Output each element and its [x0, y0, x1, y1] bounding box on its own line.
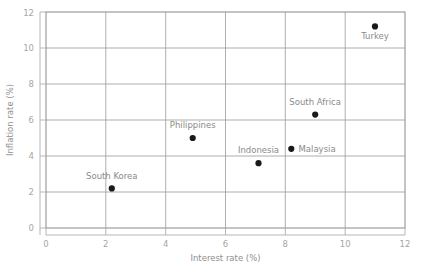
- marker-philippines[interactable]: [190, 135, 196, 141]
- x-tick-label-6: 6: [223, 239, 228, 249]
- x-tick-label-2: 2: [103, 239, 108, 249]
- y-tick-label-10: 10: [23, 43, 34, 53]
- point-label-philippines: Philippines: [170, 120, 216, 130]
- y-tick-label-12: 12: [23, 8, 34, 18]
- chart-canvas: 0 2 4 6 8 10 12 0 2 4 6 8 10 12 Interest…: [0, 0, 423, 265]
- x-tick-labels: 0 2 4 6 8 10 12: [43, 239, 410, 249]
- x-tick-label-8: 8: [283, 239, 288, 249]
- point-label-south-korea: South Korea: [86, 171, 138, 181]
- point-label-south-africa: South Africa: [289, 97, 341, 107]
- y-tick-label-8: 8: [29, 79, 34, 89]
- x-tick-label-12: 12: [400, 239, 411, 249]
- marker-turkey[interactable]: [372, 23, 378, 29]
- point-label-indonesia: Indonesia: [238, 145, 279, 155]
- y-tick-label-0: 0: [29, 223, 34, 233]
- marker-south-africa[interactable]: [312, 112, 318, 118]
- x-axis-title: Interest rate (%): [190, 253, 260, 263]
- x-tick-label-4: 4: [163, 239, 168, 249]
- y-tick-label-6: 6: [29, 115, 34, 125]
- point-label-turkey: Turkey: [360, 31, 389, 41]
- y-tick-label-4: 4: [29, 151, 34, 161]
- x-tick-marks: [46, 228, 405, 235]
- marker-south-korea[interactable]: [109, 185, 115, 191]
- x-tick-label-10: 10: [340, 239, 351, 249]
- y-tick-labels: 0 2 4 6 8 10 12: [23, 8, 34, 233]
- marker-malaysia[interactable]: [288, 146, 294, 152]
- y-tick-marks: [40, 12, 46, 228]
- x-tick-label-0: 0: [43, 239, 48, 249]
- scatter-chart: 0 2 4 6 8 10 12 0 2 4 6 8 10 12 Interest…: [0, 0, 423, 265]
- y-axis-title: Inflation rate (%): [5, 84, 15, 156]
- y-tick-label-2: 2: [29, 187, 34, 197]
- point-label-malaysia: Malaysia: [299, 144, 336, 154]
- marker-indonesia[interactable]: [255, 160, 261, 166]
